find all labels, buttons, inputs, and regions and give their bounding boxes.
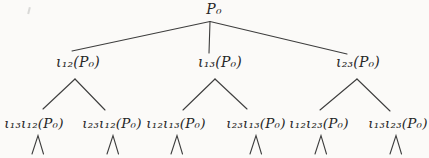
tree-edges	[0, 0, 429, 158]
edge-i12-to-right-leaf	[75, 79, 105, 110]
edge-i13-to-left-leaf	[183, 79, 215, 110]
edge-root-to-i12	[72, 22, 210, 52]
continuation-wedge-icon	[32, 136, 44, 155]
node-root: P₀	[206, 2, 221, 17]
continuation-wedge-icon	[107, 136, 119, 155]
node-i12-i13: ι₁₂ι₁₃(P₀)	[146, 116, 205, 131]
node-i23: ι₂₃(P₀)	[336, 55, 380, 70]
continuation-wedge-icon	[250, 136, 262, 155]
node-i13-i23: ι₁₃ι₂₃(P₀)	[368, 116, 427, 131]
edge-root-to-i13	[209, 22, 210, 54]
node-i23-i12: ι₂₃ι₁₂(P₀)	[82, 116, 141, 131]
node-i12-i23: ι₁₂ι₂₃(P₀)	[289, 116, 348, 131]
edge-i13-to-right-leaf	[215, 79, 247, 109]
edge-i23-to-left-leaf	[320, 79, 357, 110]
tree-diagram-figure: P₀ ι₁₂(P₀) ι₁₃(P₀) ι₂₃(P₀) ι₁₃ι₁₂(P₀) ι₂…	[0, 0, 429, 158]
node-i13: ι₁₃(P₀)	[198, 55, 242, 70]
node-i12: ι₁₂(P₀)	[56, 55, 100, 70]
continuation-wedge-icon	[171, 136, 183, 155]
edge-i12-to-left-leaf	[43, 79, 75, 109]
continuation-wedge-icon	[315, 136, 327, 155]
node-i23-i13: ι₂₃ι₁₃(P₀)	[226, 116, 285, 131]
node-i13-i12: ι₁₃ι₁₂(P₀)	[4, 116, 63, 131]
edge-i23-to-right-leaf	[357, 79, 390, 111]
continuation-wedge-icon	[390, 136, 402, 155]
edge-root-to-i23	[210, 22, 347, 55]
